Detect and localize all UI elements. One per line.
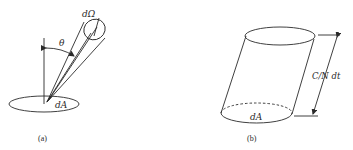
cylinder-right-side	[292, 39, 314, 114]
solid-angle-cone	[46, 15, 109, 103]
cylinder-left-side	[221, 36, 246, 113]
cylinder-top-ellipse	[245, 27, 315, 45]
figure: θ dΩ dA (a) C/N dt dA (b)	[0, 0, 353, 150]
diagram-canvas: θ dΩ dA (a) C/N dt dA (b)	[0, 0, 353, 150]
solid-angle-label: dΩ	[82, 9, 96, 19]
panel-a: θ dΩ dA (a)	[9, 9, 109, 143]
theta-label: θ	[59, 38, 65, 48]
area-label-a: dA	[55, 100, 68, 110]
panel-a-caption: (a)	[38, 134, 47, 143]
panel-b: C/N dt dA (b)	[221, 27, 341, 143]
height-label: C/N dt	[312, 71, 341, 81]
panel-b-caption: (b)	[247, 134, 257, 143]
area-label-b: dA	[250, 112, 263, 122]
